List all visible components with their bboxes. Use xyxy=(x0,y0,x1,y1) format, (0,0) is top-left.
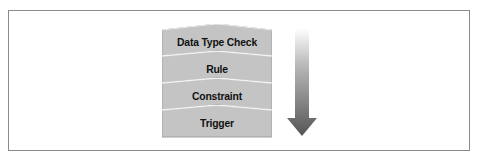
layer-label: Trigger xyxy=(168,105,267,137)
layer-stack: Data Type Check Rule Constraint Trigger xyxy=(162,24,272,138)
arrow-down-icon xyxy=(286,28,318,138)
layer-trigger: Trigger xyxy=(162,105,272,137)
